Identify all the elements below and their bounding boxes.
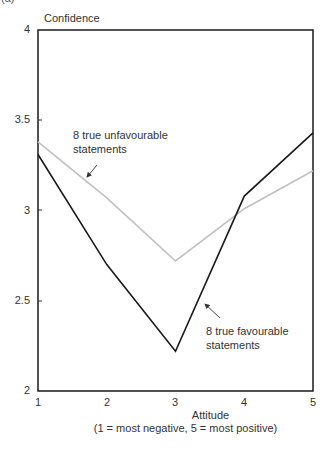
plot-area xyxy=(0,0,329,451)
annotation-favourable-line1: 8 true favourable xyxy=(206,324,289,338)
annotation-unfavourable-line1: 8 true unfavourable xyxy=(73,128,168,142)
annotation-unfavourable: 8 true unfavourable statements xyxy=(73,128,168,156)
annotation-unfavourable-line2: statements xyxy=(73,142,168,156)
line-unfavourable-statements xyxy=(38,142,313,261)
annotation-arrow-favourable xyxy=(205,304,220,318)
line-favourable-statements xyxy=(38,133,313,351)
annotation-arrow-unfavourable xyxy=(87,165,97,177)
annotation-favourable-line2: statements xyxy=(206,338,289,352)
annotation-favourable: 8 true favourable statements xyxy=(206,324,289,352)
